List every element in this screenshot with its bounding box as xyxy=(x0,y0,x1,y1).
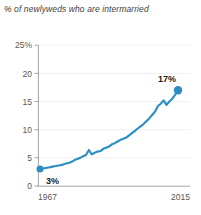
chart-figure: % of newlyweds who are intermarried 25% … xyxy=(0,0,201,215)
start-point-marker xyxy=(37,166,44,173)
y-axis-ticks xyxy=(35,45,39,186)
series-group xyxy=(37,86,183,173)
gridlines xyxy=(38,45,190,158)
annotation-end-value: 17% xyxy=(158,74,176,84)
x-tick-label-start: 1967 xyxy=(38,192,57,202)
y-tick-label-15: 15 xyxy=(23,97,33,107)
y-tick-label-10: 10 xyxy=(23,125,33,135)
annotation-start-value: 3% xyxy=(46,176,59,186)
y-tick-label-20: 20 xyxy=(23,69,33,79)
x-tick-label-end: 2015 xyxy=(171,192,190,202)
y-tick-label-5: 5 xyxy=(27,153,32,163)
y-tick-label-25: 25% xyxy=(15,40,32,50)
y-tick-label-0: 0 xyxy=(27,181,32,191)
line-chart-plot: 25% 20 15 10 5 0 1967 2015 3% 17% xyxy=(0,0,201,215)
end-point-marker xyxy=(174,86,182,94)
